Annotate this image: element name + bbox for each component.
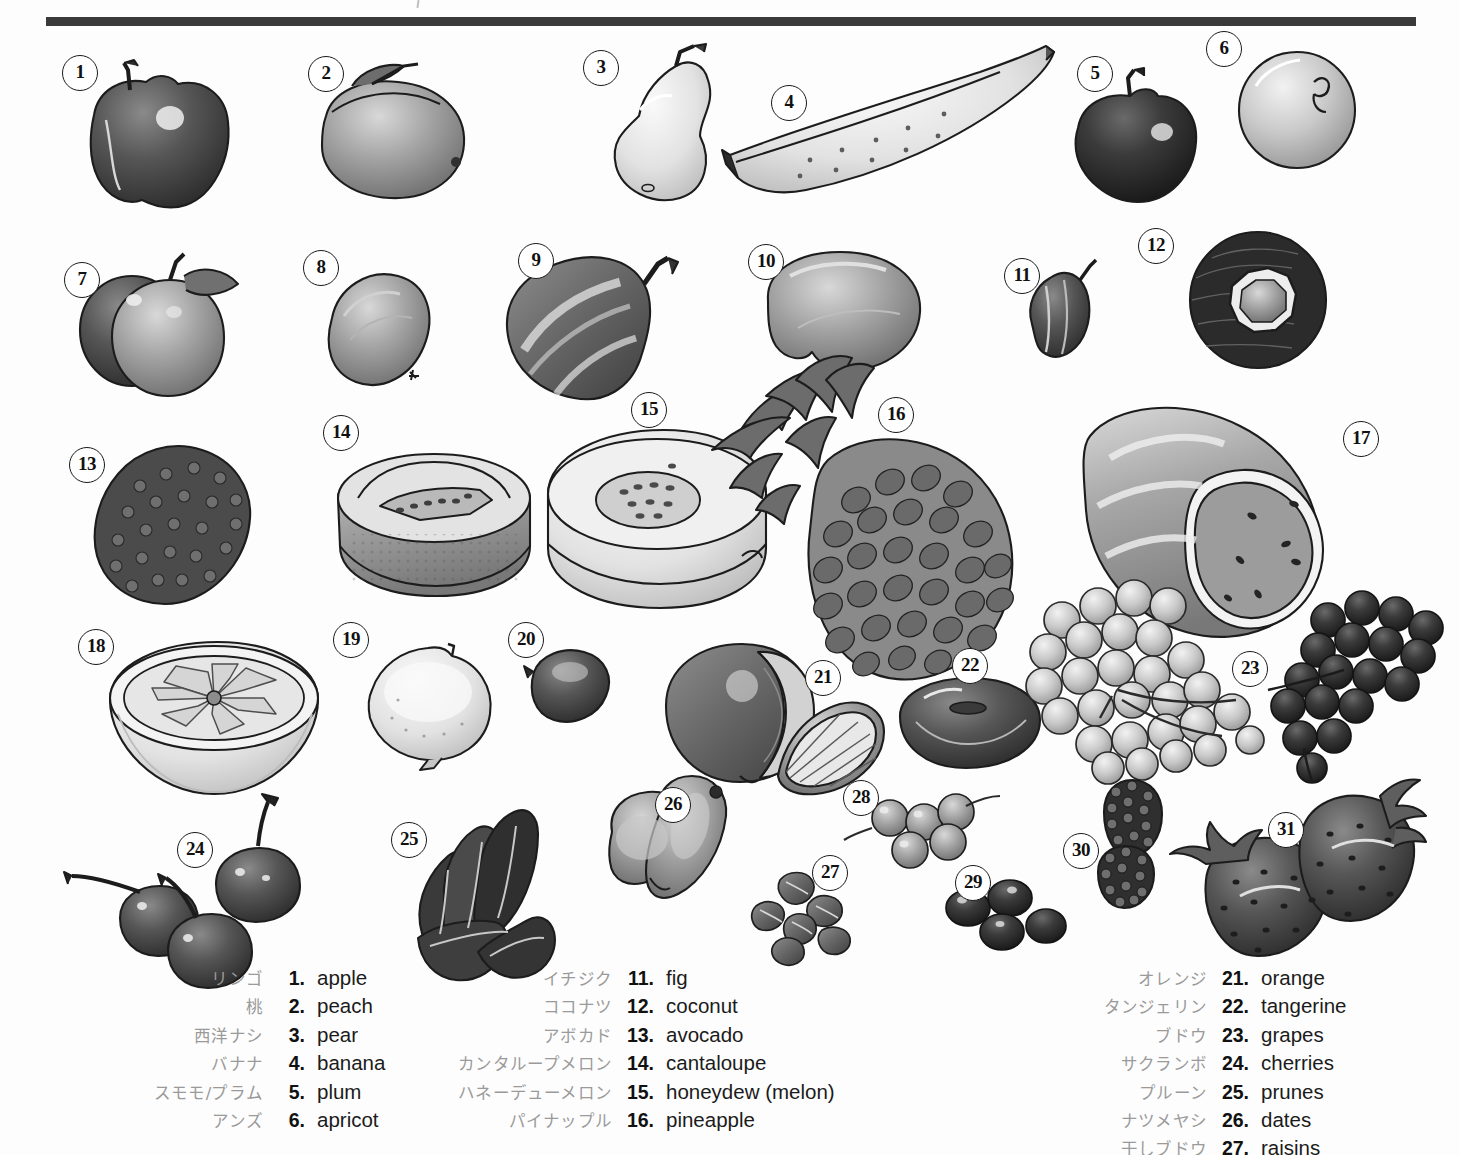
legend-column-1: リンゴ1.apple桃2.peach西洋ナシ3.pearバナナ4.bananaス… (18, 966, 438, 1136)
callout-7-apricots: 7 (64, 262, 100, 298)
legend-number: 3. (263, 1024, 305, 1047)
fruit-blackberries (1098, 780, 1162, 908)
legend-japanese-label: ブドウ (975, 1023, 1207, 1047)
legend-number: 13. (612, 1024, 654, 1047)
legend-english-label: pear (305, 1023, 438, 1047)
legend-japanese-label: プルーン (975, 1080, 1207, 1104)
legend-japanese-label: 西洋ナシ (18, 1023, 263, 1047)
fruit-pear (615, 44, 711, 200)
legend-number: 4. (263, 1052, 305, 1075)
legend-japanese-label: 桃 (18, 994, 263, 1018)
callout-6-apricot: 6 (1206, 31, 1242, 67)
legend-japanese-label: スモモ/プラム (18, 1080, 263, 1104)
legend-entry-peach: 桃2.peach (18, 994, 438, 1022)
callout-16-pineapple: 16 (878, 397, 914, 433)
legend-entry-dates: ナツメヤシ26.dates (975, 1108, 1445, 1136)
fruit-mango (768, 252, 920, 370)
legend-japanese-label: サクランボ (975, 1051, 1207, 1075)
legend-number: 25. (1207, 1081, 1249, 1104)
callout-30-blackberries: 30 (1063, 833, 1099, 869)
legend-english-label: dates (1249, 1108, 1445, 1132)
legend-number: 24. (1207, 1052, 1249, 1075)
callout-1-apple: 1 (62, 55, 98, 91)
legend-entry-apple: リンゴ1.apple (18, 966, 438, 994)
legend-english-label: tangerine (1249, 994, 1445, 1018)
fruit-cantaloupe (338, 454, 530, 596)
legend-english-label: apple (305, 966, 438, 990)
fruit-avocado (95, 446, 250, 604)
fruit-apricot (1239, 52, 1355, 168)
callout-9-papaya: 9 (518, 243, 554, 279)
fruit-peach (322, 64, 464, 198)
picture-dictionary-page: 1234567891011121314151617181920212223242… (0, 0, 1459, 1155)
legend-japanese-label: 干しブドウ (975, 1136, 1207, 1155)
legend-entry-cantaloupe: カンタループメロン14.cantaloupe (430, 1051, 970, 1079)
legend-number: 12. (612, 995, 654, 1018)
legend-number: 16. (612, 1109, 654, 1132)
legend-english-label: prunes (1249, 1080, 1445, 1104)
legend-entry-pineapple: パイナップル16.pineapple (430, 1108, 970, 1136)
legend-entry-banana: バナナ4.banana (18, 1051, 438, 1079)
legend-entry-avocado: アボカド13.avocado (430, 1023, 970, 1051)
legend-column-2: イチジク11.figココナツ12.coconutアボカド13.avocadoカン… (430, 966, 970, 1136)
legend-japanese-label: パイナップル (430, 1108, 612, 1132)
fruit-strawberries (1170, 780, 1426, 956)
legend-english-label: avocado (654, 1023, 970, 1047)
legend-english-label: fig (654, 966, 970, 990)
legend-english-label: apricot (305, 1108, 438, 1132)
legend-number: 11. (612, 967, 654, 990)
callout-20-lime: 20 (508, 622, 544, 658)
callout-5-plum: 5 (1077, 56, 1113, 92)
legend-japanese-label: アボカド (430, 1023, 612, 1047)
legend-column-3: オレンジ21.orangeタンジェリン22.tangerineブドウ23.gra… (975, 966, 1445, 1155)
legend-english-label: coconut (654, 994, 970, 1018)
callout-13-avocado: 13 (69, 447, 105, 483)
fruit-grapefruit (110, 642, 318, 794)
legend-japanese-label: オレンジ (975, 966, 1207, 990)
legend-japanese-label: イチジク (430, 966, 612, 990)
legend-number: 21. (1207, 967, 1249, 990)
callout-15-honeydew: 15 (631, 392, 667, 428)
legend-entry-tangerine: タンジェリン22.tangerine (975, 994, 1445, 1022)
legend-entry-fig: イチジク11.fig (430, 966, 970, 994)
legend-english-label: grapes (1249, 1023, 1445, 1047)
legend-english-label: honeydew (melon) (654, 1080, 970, 1104)
legend-english-label: plum (305, 1080, 438, 1104)
legend-english-label: orange (1249, 966, 1445, 990)
legend-number: 23. (1207, 1024, 1249, 1047)
fruit-grapes-purple (1268, 591, 1443, 783)
fruit-fig (1030, 260, 1096, 357)
callout-24-cherries: 24 (177, 832, 213, 868)
fruit-lime (524, 650, 609, 721)
callout-14-cantaloupe: 14 (323, 415, 359, 451)
callout-12-coconut: 12 (1138, 228, 1174, 264)
fruit-apricots (80, 254, 238, 396)
callout-28-currants: 28 (843, 780, 879, 816)
legend-number: 14. (612, 1052, 654, 1075)
legend-number: 26. (1207, 1109, 1249, 1132)
legend-english-label: peach (305, 994, 438, 1018)
fruit-prunes (418, 810, 555, 980)
legend-entry-coconut: ココナツ12.coconut (430, 994, 970, 1022)
legend-number: 6. (263, 1109, 305, 1132)
callout-21-orange: 21 (805, 660, 841, 696)
legend-entry-pear: 西洋ナシ3.pear (18, 1023, 438, 1051)
legend-english-label: cantaloupe (654, 1051, 970, 1075)
legend-english-label: raisins (1249, 1136, 1445, 1155)
legend-entry-orange: オレンジ21.orange (975, 966, 1445, 994)
legend-english-label: banana (305, 1051, 438, 1075)
callout-23-grapes: 23 (1232, 651, 1268, 687)
callout-2-peach: 2 (308, 56, 344, 92)
callout-4-banana: 4 (771, 85, 807, 121)
callout-10-mango: 10 (748, 244, 784, 280)
fruit-cherries (64, 794, 300, 988)
legend-entry-raisins: 干しブドウ27.raisins (975, 1136, 1445, 1155)
callout-22-tangerine: 22 (952, 648, 988, 684)
legend-japanese-label: アンズ (18, 1108, 263, 1132)
callout-18-grapefruit: 18 (78, 629, 114, 665)
callout-26-dates: 26 (655, 787, 691, 823)
fruit-kiwi (329, 274, 430, 385)
legend-entry-cherries: サクランボ24.cherries (975, 1051, 1445, 1079)
legend-number: 15. (612, 1081, 654, 1104)
legend-entry-plum: スモモ/プラム5.plum (18, 1080, 438, 1108)
